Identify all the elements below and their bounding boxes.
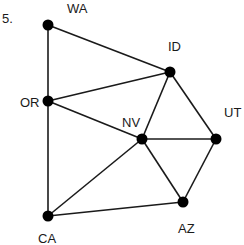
node-ut (211, 134, 222, 145)
label-ut: UT (224, 106, 241, 119)
edge-nv-az (142, 139, 183, 202)
edge-ca-az (48, 202, 183, 216)
node-id (165, 67, 176, 78)
edge-or-id (48, 72, 170, 101)
label-nv: NV (122, 116, 140, 129)
edge-nv-ca (48, 139, 142, 216)
edge-wa-id (48, 25, 170, 72)
label-wa: WA (67, 2, 87, 15)
edge-ut-az (183, 139, 216, 202)
node-nv (137, 134, 148, 145)
label-az: AZ (178, 222, 195, 235)
edge-id-ut (170, 72, 216, 139)
node-wa (43, 20, 54, 31)
edge-id-nv (142, 72, 170, 139)
label-id: ID (168, 40, 181, 53)
node-az (178, 197, 189, 208)
label-ca: CA (38, 232, 56, 245)
node-ca (43, 211, 54, 222)
label-or: OR (20, 96, 40, 109)
node-or (43, 96, 54, 107)
